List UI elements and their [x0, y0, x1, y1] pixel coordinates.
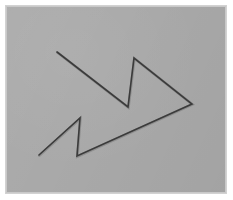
- figure-root: Zigzag polyline figure Hand-drawn dark z…: [0, 0, 233, 200]
- panel-grain-overlay: [7, 7, 225, 192]
- drawing-panel: [7, 7, 225, 192]
